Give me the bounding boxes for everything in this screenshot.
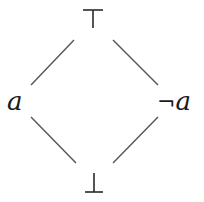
edge-a-to-top: [31, 40, 74, 85]
node-a-label: a: [7, 88, 23, 114]
hasse-diagram: ⊤ ⊥ a ¬a: [0, 0, 204, 202]
top-symbol-icon: [83, 10, 103, 28]
node-not-a: ¬a: [157, 88, 191, 114]
edge-nota-to-top: [113, 40, 158, 85]
edge-bottom-to-a: [31, 117, 76, 163]
bottom-symbol-icon: [85, 173, 103, 192]
negation-symbol: ¬: [157, 90, 175, 115]
edge-bottom-to-nota: [113, 117, 158, 163]
node-not-a-label: a: [175, 86, 191, 116]
